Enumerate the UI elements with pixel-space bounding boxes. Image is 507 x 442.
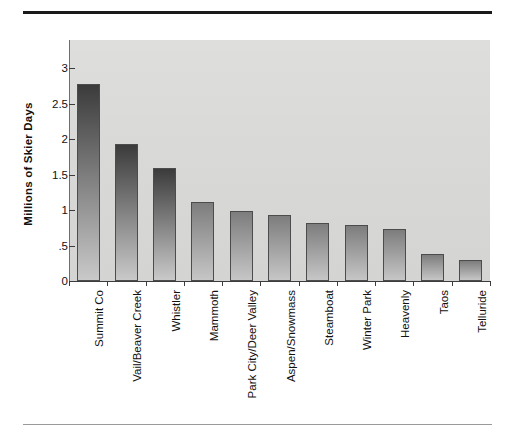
- bar: [268, 215, 291, 281]
- x-axis-tick-label: Heavenly: [399, 290, 411, 338]
- bar: [306, 223, 329, 281]
- bar: [345, 225, 368, 281]
- bar: [77, 84, 100, 281]
- x-axis-tick-label: Steamboat: [323, 290, 335, 346]
- y-axis-tick-label: 3: [30, 62, 68, 74]
- x-axis-tick-mark: [452, 281, 453, 286]
- bar: [230, 211, 253, 281]
- x-axis-tick-mark: [490, 281, 491, 286]
- x-axis-tick-label: Mammoth: [208, 290, 220, 341]
- y-axis-tick-label: 1: [30, 204, 68, 216]
- bar: [115, 144, 138, 281]
- x-axis-tick-label: Vail/Beaver Creek: [131, 290, 143, 382]
- x-axis-tick-mark: [413, 281, 414, 286]
- bar: [459, 260, 482, 281]
- bar: [153, 168, 176, 281]
- y-axis-tick-mark: [69, 210, 75, 211]
- x-axis-tick-label: Winter Park: [361, 290, 373, 350]
- y-axis-tick-mark: [69, 175, 75, 176]
- y-axis-tick-label: 0: [30, 275, 68, 287]
- y-axis-tick-mark: [69, 104, 75, 105]
- x-axis-tick-mark: [184, 281, 185, 286]
- x-axis-tick-mark: [260, 281, 261, 286]
- x-axis-tick-mark: [299, 281, 300, 286]
- x-axis-tick-label: Telluride: [476, 290, 488, 333]
- y-axis-tick-label: .5: [30, 240, 68, 252]
- x-axis-tick-mark: [375, 281, 376, 286]
- bar: [421, 254, 444, 281]
- bar: [383, 229, 406, 281]
- bar: [191, 202, 214, 281]
- x-axis-tick-label: Taos: [438, 290, 450, 314]
- y-axis-tick-mark: [69, 246, 75, 247]
- top-horizontal-rule: [23, 11, 492, 14]
- skier-days-bar-chart: Millions of Skier Days 0.511.522.53 Summ…: [0, 0, 507, 442]
- x-axis-tick-mark: [69, 281, 70, 286]
- y-axis-tick-label: 2: [30, 133, 68, 145]
- x-axis-line: [69, 281, 491, 282]
- x-axis-tick-label: Whistler: [170, 290, 182, 332]
- y-axis-tick-mark: [69, 139, 75, 140]
- y-axis-tick-label: 2.5: [30, 98, 68, 110]
- x-axis-tick-label: Summit Co: [93, 290, 105, 347]
- x-axis-tick-mark: [146, 281, 147, 286]
- y-axis-tick-label: 1.5: [30, 169, 68, 181]
- x-axis-tick-label: Aspen/Snowmass: [285, 290, 297, 382]
- x-axis-tick-label: Park City/Deer Valley: [246, 290, 258, 398]
- x-axis-tick-mark: [107, 281, 108, 286]
- x-axis-tick-mark: [337, 281, 338, 286]
- y-axis-tick-mark: [69, 68, 75, 69]
- bottom-horizontal-rule: [23, 424, 492, 425]
- x-axis-tick-mark: [222, 281, 223, 286]
